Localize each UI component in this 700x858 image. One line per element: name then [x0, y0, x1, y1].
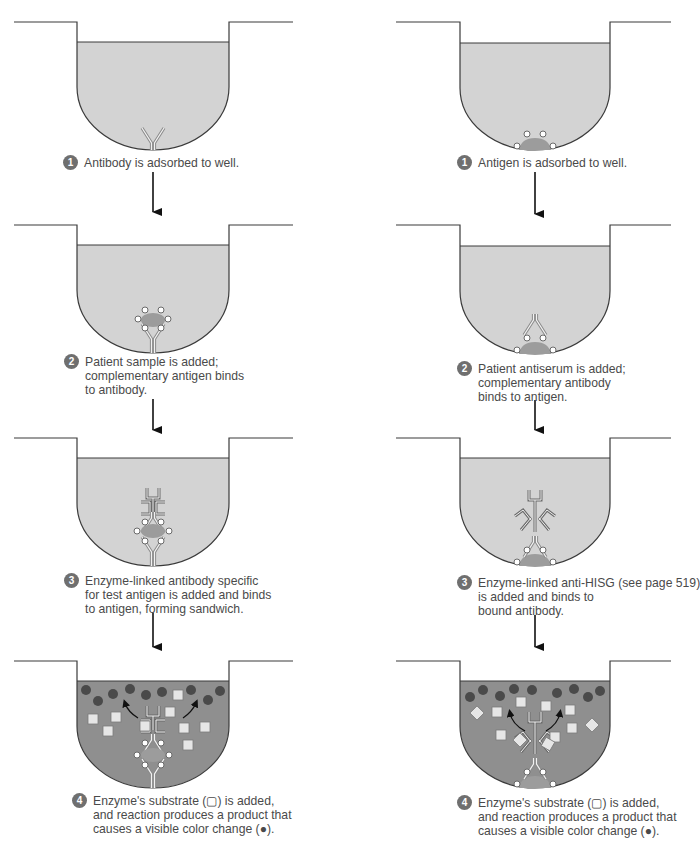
- caption-line: to antibody.: [85, 383, 244, 397]
- antigen-site: [550, 347, 556, 353]
- antigen-site: [158, 740, 164, 746]
- caption-left-step-1: 1 Antibody is adsorbed to well.: [84, 156, 239, 170]
- product-dot: [569, 684, 579, 694]
- caption-right-step-1: 1 Antigen is adsorbed to well.: [478, 156, 627, 170]
- well: [396, 22, 671, 150]
- caption-line: binds to antigen.: [478, 390, 626, 404]
- caption-line: Enzyme-linked anti-HISG (see page 519): [478, 576, 700, 590]
- product-dot: [478, 685, 488, 695]
- product-dot: [583, 692, 593, 702]
- substrate-square: [140, 721, 150, 731]
- antigen-site: [514, 143, 520, 149]
- step-badge: 1: [63, 155, 78, 170]
- well: [14, 438, 293, 566]
- antigen-site: [540, 769, 546, 775]
- caption-line: complementary antibody: [478, 376, 626, 390]
- substrate-square: [200, 722, 210, 732]
- antigen-site: [142, 762, 148, 768]
- antigen-site: [142, 740, 148, 746]
- well: [14, 22, 293, 150]
- substrate-square: [567, 723, 577, 733]
- caption-left-step-4: 4 Enzyme's substrate (▢) is added, and r…: [93, 794, 292, 836]
- substrate-square: [103, 726, 113, 736]
- antigen-site: [524, 547, 530, 553]
- substrate-square: [165, 707, 175, 717]
- antigen-site: [134, 752, 140, 758]
- product-dot: [495, 691, 505, 701]
- caption-right-step-4: 4 Enzyme's substrate (▢) is added, and r…: [478, 796, 677, 838]
- product-dot: [595, 686, 605, 696]
- product-dot: [552, 688, 562, 698]
- caption-line: to antigen, forming sandwich.: [85, 602, 271, 616]
- antigen: [141, 748, 165, 762]
- antigen-site: [158, 762, 164, 768]
- well-liquid: [460, 246, 610, 354]
- antigen-site: [524, 335, 530, 341]
- well: [396, 225, 671, 354]
- step-badge: 4: [457, 795, 472, 810]
- well-liquid: [77, 42, 229, 150]
- antigen-site: [158, 325, 164, 331]
- substrate-square: [496, 730, 506, 740]
- product-dot: [215, 686, 225, 696]
- caption-line: Enzyme's substrate (▢) is added,: [478, 796, 677, 810]
- antigen-site: [550, 143, 556, 149]
- antigen-site: [550, 559, 556, 565]
- antigen-site: [158, 519, 164, 525]
- antigen-site: [142, 538, 148, 544]
- antigen-site: [166, 528, 172, 534]
- step-badge: 1: [457, 155, 472, 170]
- antigen-site: [158, 307, 164, 313]
- substrate-square: [541, 701, 551, 711]
- caption-line: Antigen is adsorbed to well.: [478, 156, 627, 170]
- product-dot: [203, 695, 213, 705]
- well: [14, 661, 293, 788]
- substrate-square: [173, 690, 183, 700]
- step-badge: 2: [457, 361, 472, 376]
- substrate-square: [111, 712, 121, 722]
- antigen-site: [142, 307, 148, 313]
- substrate-square: [183, 740, 193, 750]
- step-badge: 3: [457, 575, 472, 590]
- caption-line: for test antigen is added and binds: [85, 588, 271, 602]
- caption-line: causes a visible color change (●).: [93, 822, 292, 836]
- step-badge: 2: [64, 354, 79, 369]
- caption-line: and reaction produces a product that: [478, 810, 677, 824]
- step-badge: 3: [64, 573, 79, 588]
- product-dot: [93, 696, 103, 706]
- substrate-square: [88, 714, 98, 724]
- well-liquid: [460, 43, 610, 150]
- substrate-square: [179, 723, 189, 733]
- product-dot: [465, 692, 475, 702]
- antigen-site: [524, 131, 530, 137]
- well: [396, 438, 671, 566]
- antigen-site: [524, 769, 530, 775]
- product-dot: [527, 685, 537, 695]
- caption-left-step-3: 3 Enzyme-linked antibody specific for te…: [85, 574, 271, 616]
- caption-line: Enzyme's substrate (▢) is added,: [93, 794, 292, 808]
- caption-left-step-2: 2 Patient sample is added; complementary…: [85, 355, 244, 397]
- product-dot: [141, 690, 151, 700]
- antigen: [141, 524, 165, 538]
- antigen-site: [166, 752, 172, 758]
- caption-line: bound antibody.: [478, 604, 700, 618]
- product-dot: [81, 685, 91, 695]
- substrate-square: [565, 705, 575, 715]
- caption-line: Enzyme-linked antibody specific: [85, 574, 271, 588]
- antigen-site: [135, 316, 141, 322]
- caption-line: and reaction produces a product that: [93, 808, 292, 822]
- antigen-site: [514, 559, 520, 565]
- antigen-site: [514, 781, 520, 787]
- product-dot: [157, 687, 167, 697]
- antigen-site: [540, 335, 546, 341]
- antigen-site: [158, 538, 164, 544]
- caption-line: Antibody is adsorbed to well.: [84, 156, 239, 170]
- antigen-site: [142, 519, 148, 525]
- antigen-site: [142, 325, 148, 331]
- product-dot: [186, 685, 196, 695]
- antigen-site: [165, 316, 171, 322]
- product-dot: [108, 689, 118, 699]
- caption-line: Patient antiserum is added;: [478, 362, 626, 376]
- product-dot: [509, 684, 519, 694]
